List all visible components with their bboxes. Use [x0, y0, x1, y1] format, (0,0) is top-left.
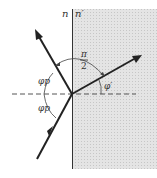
- medium-right-region: [73, 9, 157, 169]
- label-phi-p-upper: φp: [38, 76, 50, 86]
- label-medium-left: n: [62, 8, 68, 19]
- label-medium-right: n′: [75, 8, 84, 19]
- label-phi-p-lower: φp: [38, 103, 50, 113]
- diagram-canvas: n n′ π 2 φp φp φ′: [0, 0, 157, 178]
- reflected-arrowhead-icon: [35, 29, 43, 40]
- label-two: 2: [81, 61, 87, 71]
- label-pi: π: [80, 49, 88, 59]
- label-phi-prime: φ′: [104, 81, 112, 91]
